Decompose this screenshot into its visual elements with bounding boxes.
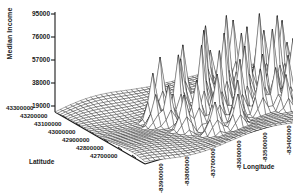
y-axis-title: Longitude: [243, 163, 274, 170]
x-axis-tick-label: 42800000: [76, 144, 104, 151]
x-axis-tick-label: 43300000: [6, 104, 34, 111]
y-axis-tick-label: -83800000: [183, 156, 190, 186]
y-axis-tick-label: -83600000: [235, 140, 242, 170]
x-axis-tick-label: 42900000: [62, 136, 90, 143]
surface-plot-figure: Median Income 9500076000570003800019000 …: [0, 0, 293, 195]
y-axis-tick-label: -83400000: [285, 125, 292, 155]
x-axis-tick-label: 43100000: [34, 120, 62, 127]
x-axis-tick-label: 43000000: [48, 128, 76, 135]
x-axis-tick-label: 42700000: [90, 152, 118, 159]
y-axis-tick-label: -83700000: [209, 148, 216, 178]
y-axis-tick-label: -83500000: [261, 132, 268, 162]
y-axis-tick-label: -83900000: [157, 163, 164, 193]
x-axis-tick-label: 43200000: [20, 112, 48, 119]
x-axis-title: Latitude: [29, 158, 54, 165]
mesh-lines: [55, 14, 293, 162]
